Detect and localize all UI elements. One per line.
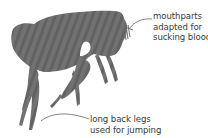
mouthparts-leader-line	[129, 19, 152, 29]
legs-label-line-2: used for jumping	[90, 125, 161, 136]
mouthparts-bristles	[124, 25, 133, 40]
legs-label: long back legs used for jumping	[90, 114, 161, 135]
flea-body	[11, 11, 127, 130]
mouthparts-label-line-1: mouthparts	[153, 11, 208, 22]
mouthparts-label: mouthparts adapted for sucking blood	[153, 11, 208, 43]
mouthparts-label-line-2: adapted for	[153, 22, 208, 33]
mouthparts-label-line-3: sucking blood	[153, 32, 208, 43]
legs-leader-line	[41, 114, 89, 121]
flea-diagram: mouthparts adapted for sucking blood lon…	[0, 0, 208, 138]
legs-label-line-1: long back legs	[90, 114, 161, 125]
